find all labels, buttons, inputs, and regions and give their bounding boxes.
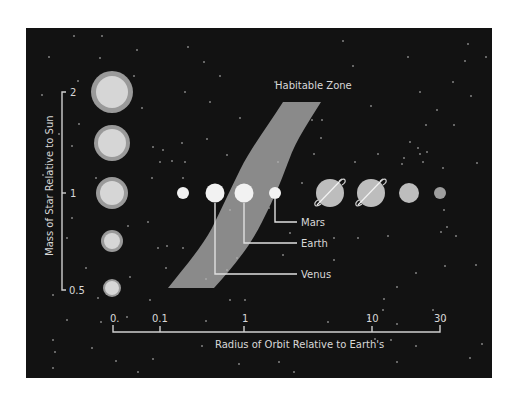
y-tick-2: 2	[70, 87, 76, 98]
star-column	[91, 71, 133, 297]
star-mass-0-5	[103, 279, 121, 297]
planet-saturn	[356, 179, 386, 207]
planet-jupiter	[315, 179, 345, 207]
star-mass-2	[91, 71, 133, 113]
label-earth: Earth	[301, 238, 328, 249]
planet-mercury	[177, 187, 189, 199]
x-tick-0-1: 0.1	[152, 313, 168, 324]
planet-mars	[269, 187, 281, 199]
x-tick-1: 1	[242, 313, 248, 324]
planet-row	[177, 179, 446, 207]
star-mass-0-75	[101, 230, 123, 252]
x-tick-0: 0.	[110, 313, 120, 324]
label-mars: Mars	[301, 217, 325, 228]
planet-neptune	[434, 187, 446, 199]
y-axis-label: Mass of Star Relative to Sun	[44, 115, 55, 256]
x-tick-30: 30	[434, 313, 447, 324]
y-tick-0-5: 0.5	[69, 285, 85, 296]
star-mass-1-5	[94, 125, 130, 161]
label-venus: Venus	[301, 269, 331, 280]
planet-venus	[206, 184, 225, 203]
x-axis: 0. 0.1 1 10 30 Radius of Orbit Relative …	[110, 313, 447, 350]
y-tick-1: 1	[70, 188, 76, 199]
star-mass-1	[96, 177, 128, 209]
planet-uranus	[399, 183, 419, 203]
x-tick-10: 10	[366, 313, 379, 324]
habitable-zone-title: Habitable Zone	[275, 80, 352, 91]
planet-earth	[235, 184, 254, 203]
x-axis-label: Radius of Orbit Relative to Earth's	[215, 339, 384, 350]
habitable-zone-diagram: 2 1 0.5 Mass of Star Relative to Sun	[0, 0, 517, 394]
y-axis: 2 1 0.5 Mass of Star Relative to Sun	[44, 87, 85, 296]
